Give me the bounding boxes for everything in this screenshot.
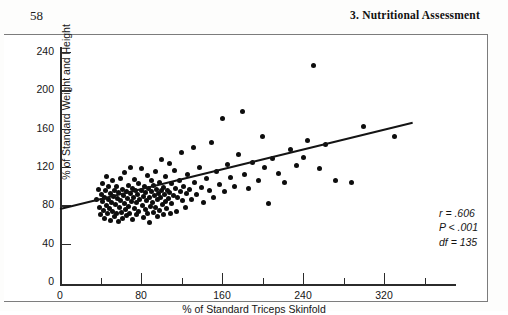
data-point bbox=[139, 166, 144, 171]
y-axis-tick bbox=[60, 244, 71, 245]
data-point bbox=[232, 184, 237, 189]
data-point bbox=[240, 109, 245, 114]
y-axis-tick-label: 160 bbox=[20, 122, 54, 134]
y-axis-tick-label: 120 bbox=[20, 160, 54, 172]
x-axis-tick-label: 240 bbox=[283, 289, 323, 301]
data-point bbox=[301, 155, 306, 160]
data-point bbox=[209, 140, 214, 145]
data-point bbox=[136, 181, 141, 186]
data-point bbox=[361, 124, 366, 129]
data-point bbox=[349, 180, 354, 185]
data-point bbox=[220, 116, 225, 121]
data-point bbox=[164, 206, 169, 211]
data-point bbox=[127, 211, 132, 216]
data-point bbox=[192, 180, 197, 185]
data-point bbox=[199, 185, 204, 190]
data-point bbox=[197, 165, 202, 170]
data-point bbox=[153, 169, 158, 174]
x-axis-minor-tick bbox=[182, 278, 183, 284]
data-point bbox=[183, 205, 188, 210]
chapter-title: 3. Nutritional Assessment bbox=[350, 9, 480, 21]
data-point bbox=[266, 201, 271, 206]
data-point bbox=[211, 195, 216, 200]
data-point bbox=[333, 178, 338, 183]
data-point bbox=[104, 174, 109, 179]
data-point bbox=[222, 189, 227, 194]
x-axis-tick-label: 160 bbox=[202, 289, 242, 301]
data-point bbox=[161, 212, 166, 217]
data-point bbox=[100, 181, 105, 186]
data-point bbox=[159, 157, 164, 162]
x-axis-minor-tick bbox=[263, 278, 264, 284]
data-point bbox=[217, 182, 222, 187]
page-number: 58 bbox=[30, 8, 43, 24]
data-point bbox=[130, 217, 135, 222]
statistics-annotation: r = .606 P < .001 df = 135 bbox=[439, 206, 478, 249]
data-point bbox=[180, 198, 185, 203]
stat-r: r = .606 bbox=[439, 206, 478, 220]
y-axis-tick-label: 200 bbox=[20, 83, 54, 95]
data-point bbox=[246, 186, 251, 191]
data-point bbox=[106, 184, 111, 189]
y-axis-tick-label: 80 bbox=[20, 198, 54, 210]
data-point bbox=[145, 173, 150, 178]
data-point bbox=[96, 187, 101, 192]
data-point bbox=[262, 165, 267, 170]
data-point bbox=[194, 192, 199, 197]
data-point bbox=[294, 163, 299, 168]
y-axis-tick-label: 40 bbox=[20, 237, 54, 249]
data-point bbox=[392, 134, 397, 139]
data-point bbox=[122, 170, 127, 175]
y-axis-tick bbox=[60, 52, 71, 53]
data-point bbox=[172, 168, 177, 173]
data-point bbox=[256, 178, 261, 183]
data-point bbox=[102, 216, 107, 221]
x-axis-minor-tick bbox=[344, 278, 345, 284]
running-head: 58 3. Nutritional Assessment bbox=[0, 8, 508, 32]
data-point bbox=[236, 152, 241, 157]
x-axis-tick-label: 320 bbox=[364, 289, 404, 301]
y-axis-tick bbox=[60, 167, 71, 168]
data-point bbox=[169, 201, 174, 206]
data-point bbox=[260, 134, 265, 139]
data-point bbox=[282, 180, 287, 185]
data-point bbox=[141, 215, 146, 220]
x-axis-minor-tick bbox=[425, 278, 426, 284]
x-axis-title: % of Standard Triceps Skinfold bbox=[0, 303, 508, 315]
x-axis-minor-tick bbox=[101, 278, 102, 284]
x-axis-tick bbox=[384, 273, 385, 284]
x-axis-tick bbox=[141, 273, 142, 284]
data-point bbox=[181, 184, 186, 189]
data-point bbox=[143, 190, 148, 195]
y-axis-tick bbox=[60, 90, 71, 91]
stat-df: df = 135 bbox=[439, 235, 478, 249]
stat-p: P < .001 bbox=[439, 220, 478, 234]
data-point bbox=[168, 211, 173, 216]
data-point bbox=[136, 209, 141, 214]
data-point bbox=[207, 188, 212, 193]
data-point bbox=[108, 218, 113, 223]
data-point bbox=[184, 191, 189, 196]
x-axis-tick-label: 0 bbox=[40, 289, 80, 301]
x-axis-tick-label: 80 bbox=[121, 289, 161, 301]
data-point bbox=[204, 176, 209, 181]
data-point bbox=[305, 138, 310, 143]
data-point bbox=[126, 204, 131, 209]
data-point bbox=[178, 189, 183, 194]
data-point bbox=[228, 175, 233, 180]
x-axis-tick bbox=[303, 273, 304, 284]
scatter-plot-area bbox=[60, 48, 456, 285]
data-point bbox=[311, 63, 316, 68]
data-point bbox=[242, 172, 247, 177]
data-point bbox=[179, 150, 184, 155]
data-point bbox=[110, 178, 115, 183]
data-point bbox=[187, 187, 192, 192]
data-point bbox=[174, 209, 179, 214]
data-point bbox=[118, 176, 123, 181]
y-axis-tick bbox=[60, 129, 71, 130]
data-point bbox=[155, 214, 160, 219]
data-point bbox=[191, 145, 196, 150]
data-point bbox=[128, 165, 133, 170]
data-point bbox=[276, 171, 281, 176]
